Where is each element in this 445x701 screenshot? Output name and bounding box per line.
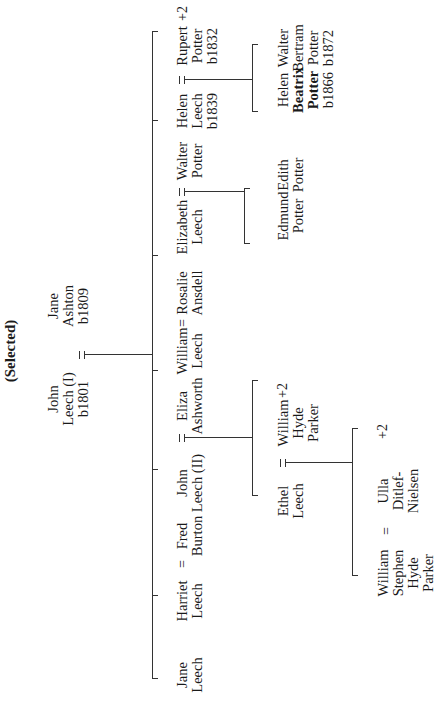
person-john-leech-i[interactable]: John Leech (I) b1801 [46, 372, 91, 426]
drop-ethel [252, 495, 258, 496]
connector-line [184, 437, 252, 438]
person-elizabeth-leech[interactable]: Elizabeth Leech [175, 200, 205, 255]
person-helen-leech[interactable]: Helen Leech b1839 [175, 93, 220, 129]
person-harriet-leech[interactable]: Harriet Leech [175, 580, 205, 621]
person-john-leech-ii[interactable]: John Leech (II) [175, 454, 205, 512]
person-walter-bertram-potter[interactable]: Walter Bertram Potter b1872 [276, 24, 336, 72]
connector-line [184, 79, 252, 80]
connector-line [84, 354, 152, 355]
person-jane-ashton[interactable]: Jane Ashton b1809 [46, 285, 91, 327]
children-bar [352, 428, 353, 576]
person-rupert-potter[interactable]: Rupert Potter b1832 [175, 26, 220, 65]
more-spouses-badge[interactable]: +2 [276, 383, 290, 398]
drop-william-stephen [352, 575, 358, 576]
marriage-symbol [179, 188, 185, 196]
drop-elizabeth [152, 255, 158, 256]
drop-jane [152, 678, 158, 679]
person-walter-potter[interactable]: Walter Potter [175, 142, 205, 180]
drop-helen [152, 120, 158, 121]
person-william-leech[interactable]: William Leech [175, 328, 205, 375]
family-tree-diagram: (Selected) John Leech (I) b1801 Jane Ash… [0, 0, 445, 701]
marriage-symbol: = [176, 319, 190, 327]
more-spouses-badge[interactable]: +2 [176, 6, 190, 21]
children-bar [252, 44, 253, 112]
person-william-hyde-parker[interactable]: William Hyde Parker [276, 400, 321, 447]
drop-end [252, 380, 258, 381]
marriage-symbol: = [176, 560, 190, 568]
marriage-symbol: = [380, 527, 394, 535]
person-jane-leech[interactable]: Jane Leech [175, 657, 205, 692]
connector-line [184, 191, 244, 192]
person-edith-potter[interactable]: Edith Potter [276, 158, 306, 193]
more-spouses-badge[interactable]: +2 [376, 424, 390, 439]
selected-label: (Selected) [2, 320, 19, 382]
drop-beatrix [252, 111, 258, 112]
drop-harriet [152, 595, 158, 596]
drop-john-ii [152, 469, 158, 470]
person-edmund-potter[interactable]: Edmund Potter [276, 191, 306, 240]
drop-william [152, 370, 158, 371]
person-ethel-leech[interactable]: Ethel Leech [276, 483, 306, 518]
marriage-symbol [280, 459, 286, 467]
person-rosalie-ansdell[interactable]: Rosalie Ansdell [175, 270, 205, 315]
marriage-symbol [179, 434, 185, 442]
connector-line [285, 462, 352, 463]
person-eliza-ashworth[interactable]: Eliza Ashworth [175, 377, 205, 434]
children-bar [252, 380, 253, 496]
drop-edith [244, 188, 250, 189]
person-helen-beatrix-potter-selected[interactable]: Helen Beatrix Potter b1866 [276, 67, 336, 113]
marriage-symbol [179, 76, 185, 84]
drop-end [352, 428, 358, 429]
children-bar [244, 188, 245, 244]
drop-end [152, 31, 158, 32]
person-fred-burton[interactable]: Fred Burton [175, 516, 205, 556]
sibling-bar [152, 31, 153, 679]
drop-edmund [244, 243, 250, 244]
person-ulla-ditlef-nielsen[interactable]: Ulla Ditlef- Nielsen [376, 469, 421, 513]
drop-walter-bertram [252, 44, 258, 45]
person-william-stephen-hyde-parker[interactable]: William Stephen Hyde Parker [376, 550, 436, 597]
marriage-symbol [79, 351, 85, 359]
